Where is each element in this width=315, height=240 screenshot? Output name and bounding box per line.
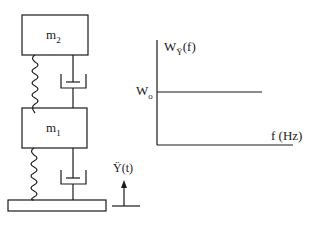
psd-level-label: Wo xyxy=(136,84,153,97)
excitation-arrow-icon xyxy=(112,186,140,206)
spring-upper-icon xyxy=(32,55,38,113)
excitation-label: Ÿ(t) xyxy=(113,162,133,174)
psd-y-axis-label: WŸ(f) xyxy=(164,40,196,53)
arrow-head-icon xyxy=(121,180,127,188)
damper-upper-icon xyxy=(61,55,86,108)
base-platform xyxy=(8,200,106,211)
mass-m2-label: m2 xyxy=(46,28,61,41)
psd-x-axis-label: f (Hz) xyxy=(271,129,302,142)
spring-lower-icon xyxy=(31,148,37,200)
damper-lower-icon xyxy=(61,148,86,200)
mass-m1-label: m1 xyxy=(46,121,61,134)
